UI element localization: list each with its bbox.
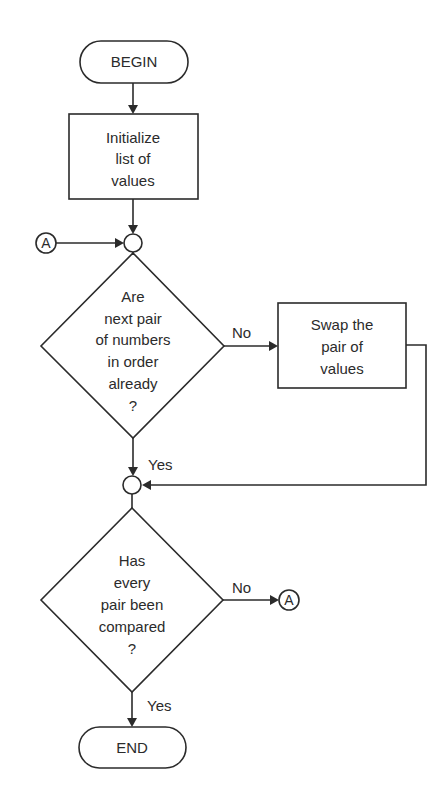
initialize-process: Initialize list of values <box>69 114 198 199</box>
decision-2-no-label: No <box>232 579 251 596</box>
decision-2-line-3: pair been <box>101 596 164 613</box>
swap-line-3: values <box>320 360 363 377</box>
decision-1-line-1: Are <box>121 288 144 305</box>
decision-1-line-4: in order <box>108 353 159 370</box>
decision-every-pair-compared: Has every pair been compared ? <box>41 508 223 692</box>
decision-2-line-5: ? <box>128 640 136 657</box>
decision-2-line-2: every <box>114 574 151 591</box>
decision-2-line-1: Has <box>119 552 146 569</box>
connector-a-incoming: A <box>36 233 124 253</box>
arrow-begin-to-initialize <box>128 83 138 114</box>
bubble-sort-flowchart: BEGIN Initialize list of values A Are ne… <box>0 0 448 790</box>
arrow-decision-1-yes: Yes <box>128 438 172 476</box>
swap-line-2: pair of <box>321 338 364 355</box>
connector-a-out-label: A <box>284 592 294 608</box>
begin-label: BEGIN <box>111 53 158 70</box>
decision-1-yes-label: Yes <box>148 456 172 473</box>
end-terminator: END <box>79 727 186 768</box>
decision-1-no-label: No <box>232 324 251 341</box>
arrow-initialize-to-junction <box>128 199 138 234</box>
begin-terminator: BEGIN <box>80 41 188 83</box>
junction-circle-2 <box>123 476 141 494</box>
decision-pair-in-order: Are next pair of numbers in order alread… <box>41 253 224 438</box>
initialize-line-3: values <box>111 172 154 189</box>
arrow-decision-1-no: No <box>224 324 278 351</box>
end-label: END <box>116 739 148 756</box>
arrow-decision-2-no: No <box>223 579 279 605</box>
decision-1-line-6: ? <box>129 397 137 414</box>
decision-1-line-5: already <box>108 375 158 392</box>
connector-a-outgoing: A <box>279 590 299 610</box>
arrow-decision-2-yes: Yes <box>127 692 171 727</box>
connector-a-label: A <box>41 235 51 251</box>
swap-line-1: Swap the <box>311 316 374 333</box>
decision-1-line-2: next pair <box>104 310 162 327</box>
swap-process: Swap the pair of values <box>278 303 406 388</box>
decision-2-line-4: compared <box>99 618 166 635</box>
junction-circle-1 <box>124 234 142 252</box>
decision-1-line-3: of numbers <box>95 331 170 348</box>
initialize-line-1: Initialize <box>106 129 160 146</box>
decision-2-yes-label: Yes <box>147 697 171 714</box>
initialize-line-2: list of <box>115 150 151 167</box>
